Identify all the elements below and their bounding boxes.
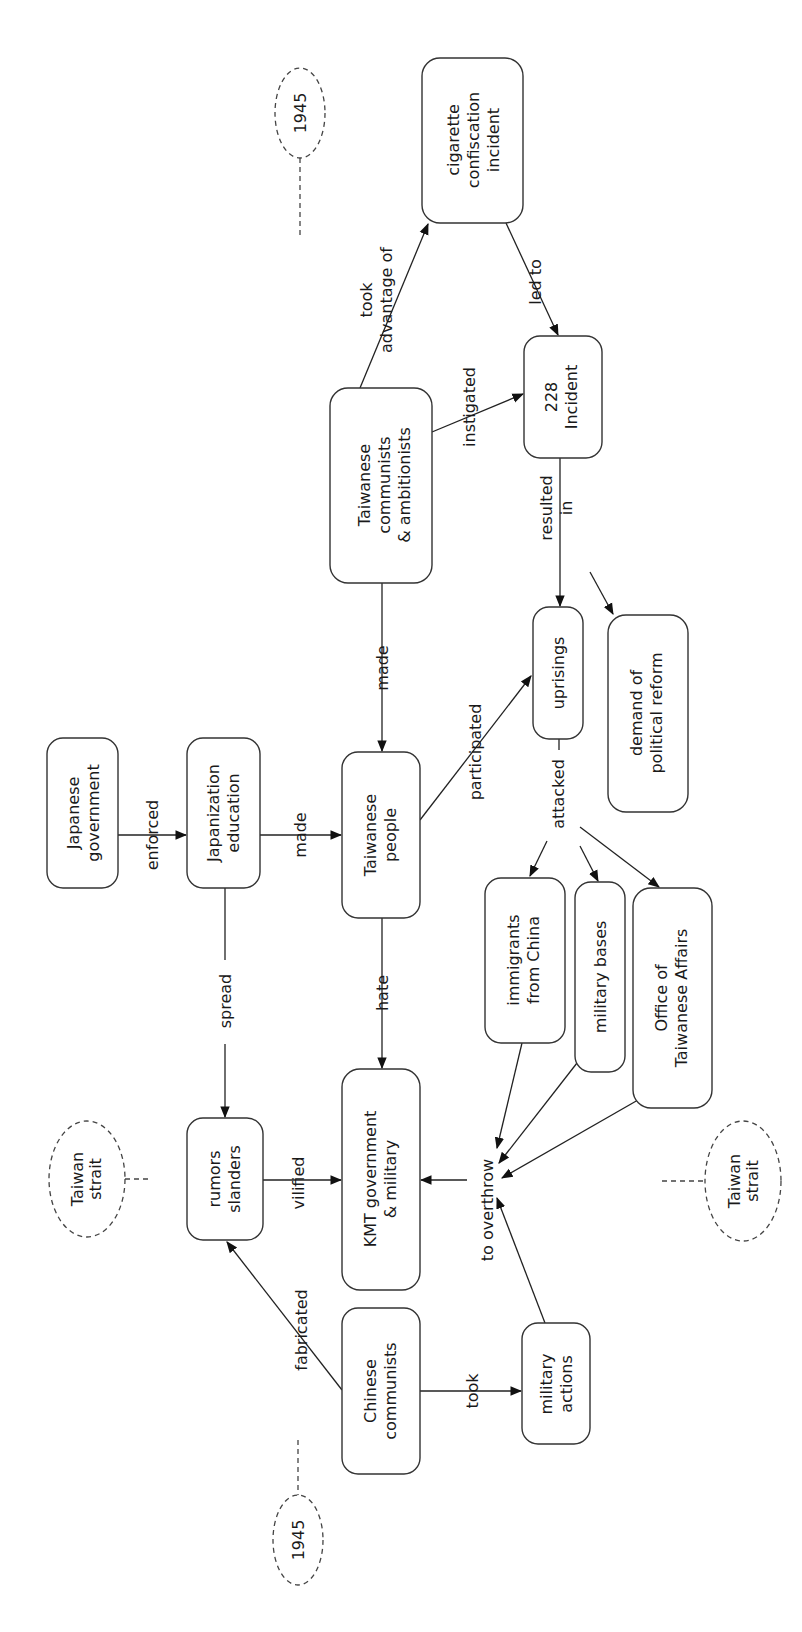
- link-label-resulted-2: in: [557, 501, 576, 516]
- node-immigrants-from-china: immigrants from China: [485, 878, 565, 1043]
- node-label-line: & ambitionists: [395, 427, 414, 543]
- edge-bases-overthrow: [499, 1063, 577, 1163]
- edge-attacked-bases: [580, 846, 598, 881]
- node-label-line: from China: [524, 916, 543, 1004]
- node-label-line: military bases: [591, 921, 610, 1034]
- taiwan-strait-right-marker: Taiwan strait: [662, 1121, 781, 1241]
- link-label-enforced: enforced: [143, 800, 162, 870]
- node-label-line: rumors: [205, 1150, 224, 1207]
- node-box: [522, 1323, 590, 1444]
- node-uprisings: uprisings: [533, 607, 583, 739]
- node-label-line: Japanization: [204, 764, 223, 863]
- node-cigarette-incident: cigarette confiscation incident: [422, 58, 523, 223]
- link-label-fabricated: fabricated: [292, 1289, 311, 1371]
- link-label-took-advantage-1: took: [357, 282, 376, 318]
- node-label-line: Taiwanese Affairs: [672, 929, 691, 1069]
- link-label-participated: participated: [466, 704, 485, 801]
- link-label-took-advantage-2: advantage of: [377, 247, 396, 353]
- node-label-line: confiscation: [464, 92, 483, 188]
- node-label-line: people: [381, 808, 400, 862]
- node-label-line: 228: [542, 382, 561, 413]
- node-label-line: education: [224, 773, 243, 852]
- link-label-took: took: [463, 1373, 482, 1409]
- node-label-line: Taiwanese: [361, 794, 380, 877]
- edge-attacked-office: [580, 827, 659, 887]
- link-label-made: made: [291, 812, 310, 857]
- year-label: 1945: [289, 1520, 308, 1561]
- year-1945-top-marker: 1945: [275, 68, 325, 235]
- node-label-line: Japanese: [64, 777, 83, 851]
- node-label-line: demand of: [627, 670, 646, 757]
- strait-label-line2: strait: [86, 1158, 105, 1200]
- node-label-line: uprisings: [549, 637, 568, 710]
- node-military-actions: military actions: [522, 1323, 590, 1444]
- node-military-bases: military bases: [575, 882, 625, 1072]
- link-label-attacked: attacked: [549, 759, 568, 829]
- node-demand-political-reform: demand of political reform: [608, 615, 688, 812]
- node-taiwanese-communists: Taiwanese communists & ambitionists: [330, 388, 432, 583]
- link-label-spread: spread: [216, 974, 235, 1029]
- node-label-line: actions: [557, 1355, 576, 1413]
- node-label-line: Taiwanese: [355, 444, 374, 527]
- strait-label-line1: Taiwan: [68, 1152, 87, 1207]
- year-1945-bottom-marker: 1945: [273, 1440, 323, 1585]
- edge-office-overthrow: [502, 1100, 638, 1178]
- node-label-line: slanders: [225, 1145, 244, 1213]
- node-chinese-communists: Chinese communists: [342, 1308, 420, 1474]
- node-label-line: communists: [375, 436, 394, 533]
- node-label-line: KMT government: [361, 1111, 380, 1248]
- node-228-incident: 228 Incident: [524, 336, 602, 458]
- node-taiwanese-people: Taiwanese people: [342, 752, 420, 918]
- link-label-instigated: instigated: [460, 367, 479, 447]
- node-label-line: military: [537, 1353, 556, 1414]
- link-label-to-overthrow: to overthrow: [478, 1159, 497, 1261]
- node-label-line: cigarette: [444, 104, 463, 176]
- node-label-line: immigrants: [504, 914, 523, 1005]
- node-japanese-government: Japanese government: [47, 738, 118, 888]
- edge-to-demand: [590, 572, 613, 614]
- node-label-line: incident: [484, 108, 503, 172]
- edge-actions-overthrow: [497, 1198, 545, 1323]
- strait-label-line2: strait: [743, 1160, 762, 1202]
- link-label-led-to: led to: [526, 259, 545, 305]
- edge-fabricated: [227, 1242, 342, 1390]
- node-label-line: & military: [381, 1140, 400, 1219]
- concept-map-canvas: 1945 1945 Taiwan strait Taiwan strait: [0, 0, 802, 1632]
- node-rumors-slanders: rumors slanders: [187, 1118, 263, 1240]
- node-label-line: Incident: [562, 365, 581, 430]
- node-office-taiwanese-affairs: Office of Taiwanese Affairs: [633, 888, 712, 1108]
- taiwan-strait-left-marker: Taiwan strait: [49, 1121, 148, 1237]
- edge-immigrants-overthrow: [497, 1043, 522, 1148]
- link-label-made: made: [373, 645, 392, 690]
- node-kmt-government: KMT government & military: [342, 1069, 420, 1290]
- edge-attacked-immigrants: [530, 841, 547, 876]
- node-label-line: communists: [381, 1342, 400, 1439]
- link-label-hate: hate: [373, 975, 392, 1011]
- node-label-line: government: [84, 764, 103, 862]
- node-label-line: political reform: [647, 652, 666, 773]
- node-label-line: Chinese: [361, 1359, 380, 1423]
- node-label-line: Office of: [652, 964, 671, 1032]
- link-label-vilified: vilified: [289, 1157, 308, 1210]
- strait-label-line1: Taiwan: [725, 1154, 744, 1209]
- node-japanization-education: Japanization education: [187, 738, 260, 888]
- year-label: 1945: [291, 93, 310, 134]
- link-label-resulted-1: resulted: [537, 475, 556, 540]
